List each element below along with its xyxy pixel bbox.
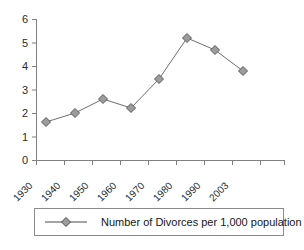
data-point [211, 46, 220, 55]
data-point [99, 95, 108, 104]
chart-legend: Number of Divorces per 1,000 population [34, 208, 284, 236]
divorce-rate-line-chart: 6 5 4 3 2 1 0 1930 1940 1950 1960 1970 1… [0, 0, 304, 250]
y-tick-marks [32, 20, 37, 161]
diamond-marker-icon [43, 215, 89, 229]
data-point [183, 34, 192, 43]
x-tick-marks [37, 161, 285, 166]
data-point [42, 118, 51, 127]
y-tick-label: 3 [14, 85, 28, 96]
data-point [71, 109, 80, 118]
data-point-markers [42, 34, 248, 127]
y-tick-label: 5 [14, 38, 28, 49]
data-point [239, 67, 248, 76]
y-tick-label: 6 [14, 14, 28, 25]
legend-entry-label: Number of Divorces per 1,000 population [101, 216, 302, 228]
legend-marker-swatch [43, 215, 89, 229]
y-tick-label: 2 [14, 108, 28, 119]
y-tick-label: 4 [14, 61, 28, 72]
y-tick-label: 1 [14, 132, 28, 143]
y-tick-label: 0 [14, 155, 28, 166]
